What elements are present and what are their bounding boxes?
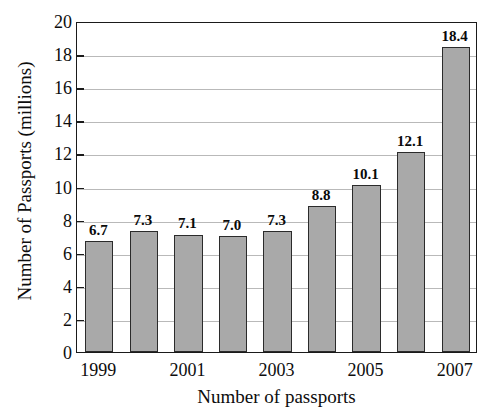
y-tick-mark [76, 121, 84, 123]
bar-group [174, 21, 202, 352]
x-tick-label: 2005 [331, 360, 401, 380]
y-tick-label: 8 [32, 212, 72, 230]
bar [130, 231, 158, 352]
bar-value-label: 18.4 [425, 28, 485, 45]
bar [85, 241, 113, 352]
bar-group [397, 21, 425, 352]
y-tick-label: 2 [32, 311, 72, 329]
x-tick-label: 2003 [242, 360, 312, 380]
y-tick-label: 10 [32, 179, 72, 197]
bar [219, 236, 247, 352]
y-tick-mark [76, 154, 84, 156]
bar-group [219, 21, 247, 352]
y-tick-mark [76, 188, 84, 190]
y-tick-mark [76, 88, 84, 90]
bar-value-label: 8.8 [291, 187, 351, 204]
x-tick-label: 1999 [63, 360, 133, 380]
y-tick-label: 12 [32, 145, 72, 163]
chart-title [0, 0, 493, 2]
bar [263, 231, 291, 352]
bar-group [85, 21, 113, 352]
bar-chart-figure: Number of Passports (millions) 024681012… [0, 0, 493, 419]
bar-group [352, 21, 380, 352]
x-tick-label: 2001 [152, 360, 222, 380]
bar-value-label: 10.1 [336, 166, 396, 183]
plot-area [76, 22, 477, 353]
y-tick-mark [76, 287, 84, 289]
y-tick-mark [76, 55, 84, 57]
y-tick-mark [76, 254, 84, 256]
bar-group [442, 21, 470, 352]
bar-value-label: 7.3 [247, 212, 307, 229]
y-tick-label: 4 [32, 278, 72, 296]
y-tick-label: 14 [32, 112, 72, 130]
bar-group [263, 21, 291, 352]
y-tick-label: 16 [32, 79, 72, 97]
x-tick-label: 2007 [420, 360, 490, 380]
bar [174, 235, 202, 353]
y-tick-mark [76, 320, 84, 322]
y-tick-label: 18 [32, 46, 72, 64]
bar [397, 152, 425, 352]
bar [442, 47, 470, 352]
bar-value-label: 12.1 [380, 133, 440, 150]
bar [308, 206, 336, 352]
y-tick-label: 6 [32, 245, 72, 263]
x-axis-title: Number of passports [76, 386, 477, 408]
bar-group [130, 21, 158, 352]
y-tick-label: 20 [32, 13, 72, 31]
bar [352, 185, 380, 352]
